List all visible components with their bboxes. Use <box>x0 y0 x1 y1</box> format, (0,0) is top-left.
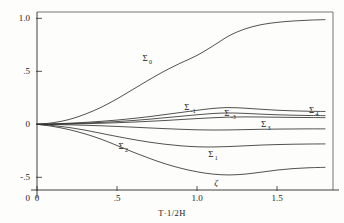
curve-label--3: Σ-3 <box>224 108 236 120</box>
x-tick-label: 1.5 <box>271 193 283 203</box>
curve-label-subscript: -1 <box>191 108 196 114</box>
plot-border <box>37 12 333 190</box>
x-axis-label: T·1/2H <box>158 208 185 218</box>
x-tick-label: .5 <box>114 193 121 203</box>
curve-Σ1 <box>37 124 325 175</box>
x-tick-label: 1.0 <box>191 193 203 203</box>
curve-labels: Σ0Σ-1Σ-3Σ4Σ3Σ2Σ1 <box>119 53 319 161</box>
figure-canvas: 0.51.01.5-.50.51.00 Σ0Σ-1Σ-3Σ4Σ3Σ2Σ1 ζ T… <box>0 0 344 223</box>
curve-label-subscript: 2 <box>125 147 128 153</box>
annotations: ζ <box>214 178 219 188</box>
axis-ticks <box>36 18 277 191</box>
curve-label-subscript: 4 <box>316 111 319 117</box>
curve-label-symbol: Σ <box>143 53 148 63</box>
y-tick-label: -.5 <box>20 172 30 182</box>
curve-label-0: Σ0 <box>143 53 153 65</box>
curve-label-symbol: Σ <box>184 102 189 112</box>
sigma-plot: 0.51.01.5-.50.51.00 Σ0Σ-1Σ-3Σ4Σ3Σ2Σ1 ζ T… <box>0 0 344 223</box>
curve-label-symbol: Σ <box>208 149 213 159</box>
origin-label: 0 <box>26 193 31 203</box>
curve-paths <box>37 20 325 175</box>
y-tick-label: .5 <box>23 66 30 76</box>
curve-label-symbol: Σ <box>309 105 314 115</box>
curve-label-subscript: 1 <box>215 155 218 161</box>
curve-label-symbol: Σ <box>224 108 229 118</box>
curve-label-symbol: Σ <box>119 141 124 151</box>
curve-label-subscript: 0 <box>149 59 152 65</box>
y-tick-label: 1.0 <box>19 13 31 23</box>
x-tick-label: 0 <box>35 193 40 203</box>
curve-label-symbol: Σ <box>261 119 266 129</box>
curve-label-subscript: -3 <box>231 114 236 120</box>
curve-label-1: Σ1 <box>208 149 218 161</box>
curve-Σ0 <box>37 20 325 125</box>
zeta-critical-point: ζ <box>214 178 219 188</box>
curve-label-2: Σ2 <box>119 141 129 153</box>
y-tick-label: 0 <box>26 119 31 129</box>
curve-label-subscript: 3 <box>268 125 271 131</box>
curve-Σ2 <box>37 124 325 147</box>
